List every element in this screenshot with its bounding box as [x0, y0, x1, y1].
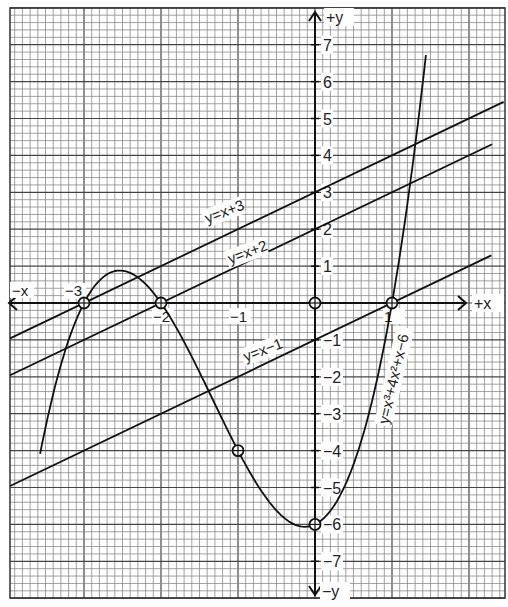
y-tick-label: 4: [323, 147, 332, 164]
x-tick-label: −3: [65, 282, 82, 299]
y-axis-neg-label: −y: [322, 583, 339, 600]
series-label: y=x³+4x²+x−6: [375, 332, 412, 425]
series-label: y=x−1: [241, 334, 285, 365]
y-tick-label: −2: [323, 369, 341, 386]
y-tick-label: 6: [323, 74, 332, 91]
y-tick-label: 5: [323, 111, 332, 128]
graph-paper-chart: +y −y +x −x 7654321−1−2−3−4−5−6−7−3−2−11…: [0, 0, 508, 607]
x-axis-pos-label: +x: [474, 295, 491, 312]
y-axis-pos-label: +y: [326, 9, 343, 26]
y-tick-label: 7: [323, 37, 332, 54]
y-tick-label: −3: [323, 406, 341, 423]
x-tick-label: −1: [230, 308, 247, 325]
x-tick-label: −2: [153, 308, 170, 325]
y-tick-label: 1: [323, 258, 332, 275]
y-tick-label: −7: [323, 553, 341, 570]
y-tick-label: −6: [323, 516, 341, 533]
y-tick-label: −4: [323, 443, 341, 460]
y-tick-label: −5: [323, 480, 341, 497]
x-axis-neg-label: −x: [12, 282, 29, 299]
